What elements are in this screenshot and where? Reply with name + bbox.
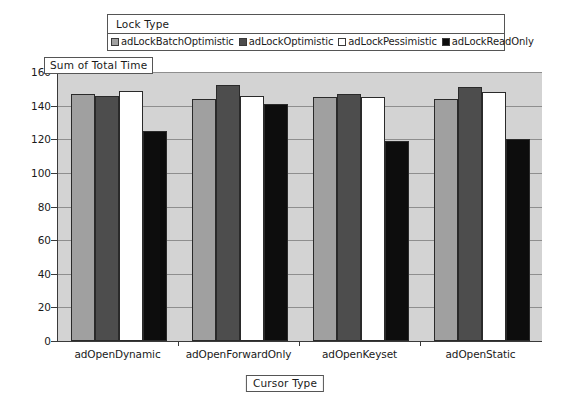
y-axis-tick-label: 40	[21, 268, 51, 280]
bar[interactable]	[216, 85, 240, 341]
plot-area	[57, 72, 542, 342]
bar[interactable]	[385, 141, 409, 341]
bar[interactable]	[95, 96, 119, 341]
legend-item[interactable]: adLockOptimistic	[239, 36, 334, 47]
y-axis-tick-mark	[51, 139, 57, 140]
legend-swatch-icon	[111, 38, 119, 46]
y-axis-tick-label: 140	[21, 100, 51, 112]
bar-group	[421, 72, 542, 341]
y-axis-tick-label: 60	[21, 234, 51, 246]
x-axis-tick-mark	[420, 341, 421, 346]
x-axis-tick-mark	[178, 341, 179, 346]
legend-item[interactable]: adLockPessimistic	[338, 36, 437, 47]
y-axis-tick-label: 120	[21, 133, 51, 145]
legend-item[interactable]: adLockBatchOptimistic	[111, 36, 234, 47]
legend-item-label: adLockReadOnly	[452, 36, 534, 47]
x-axis-tick-label: adOpenForwardOnly	[186, 348, 292, 360]
y-axis-tick-label: 20	[21, 301, 51, 313]
y-axis-title: Sum of Total Time	[44, 57, 153, 74]
y-axis-tick-mark	[51, 207, 57, 208]
legend-items: adLockBatchOptimisticadLockOptimisticadL…	[108, 34, 504, 50]
y-axis-tick-label: 0	[21, 335, 51, 347]
legend-swatch-icon	[442, 38, 450, 46]
x-axis-title: Cursor Type	[246, 375, 324, 392]
x-axis-tick-mark	[299, 341, 300, 346]
legend-item-label: adLockOptimistic	[249, 36, 334, 47]
bar[interactable]	[119, 91, 143, 342]
y-axis-tick-mark	[51, 274, 57, 275]
bar[interactable]	[313, 97, 337, 341]
bar[interactable]	[71, 94, 95, 341]
y-axis-tick-mark	[51, 106, 57, 107]
legend-item-label: adLockPessimistic	[348, 36, 437, 47]
y-axis-tick-mark	[51, 173, 57, 174]
y-axis-tick-label: 100	[21, 167, 51, 179]
y-axis-tick-mark	[51, 307, 57, 308]
legend-swatch-icon	[239, 38, 247, 46]
legend-title: Lock Type	[108, 15, 504, 34]
y-axis-tick-label: 80	[21, 201, 51, 213]
bar-groups	[58, 72, 542, 341]
bar[interactable]	[192, 99, 216, 341]
bar-group	[300, 72, 421, 341]
bar-group	[179, 72, 300, 341]
bar[interactable]	[337, 94, 361, 341]
legend-item[interactable]: adLockReadOnly	[442, 36, 534, 47]
x-axis-tick-label: adOpenKeyset	[322, 348, 397, 360]
bar-group	[58, 72, 179, 341]
bar[interactable]	[458, 87, 482, 341]
bar[interactable]	[506, 139, 530, 341]
x-axis-tick-label: adOpenDynamic	[74, 348, 160, 360]
legend: Lock Type adLockBatchOptimisticadLockOpt…	[107, 14, 505, 51]
bar[interactable]	[434, 99, 458, 341]
y-axis-tick-mark	[51, 341, 57, 342]
bar[interactable]	[143, 131, 167, 341]
legend-item-label: adLockBatchOptimistic	[121, 36, 234, 47]
bar[interactable]	[482, 92, 506, 341]
bar[interactable]	[361, 97, 385, 341]
bar[interactable]	[240, 96, 264, 341]
legend-swatch-icon	[338, 38, 346, 46]
y-axis-tick-mark	[51, 240, 57, 241]
x-axis-tick-label: adOpenStatic	[446, 348, 516, 360]
bar[interactable]	[264, 104, 288, 341]
